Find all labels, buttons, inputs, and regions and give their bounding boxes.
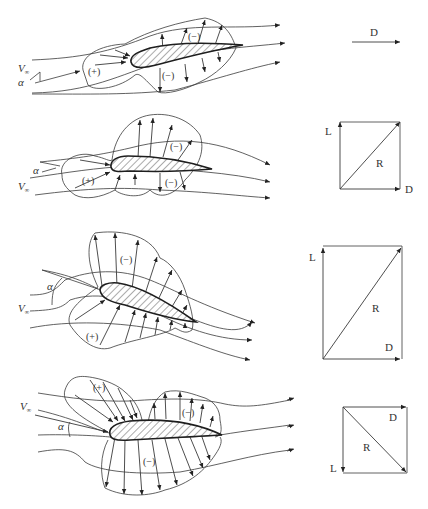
positive-pressure-label: (+) <box>88 66 100 78</box>
panel-4: V∞ α (+) (−) (−) D R L <box>20 376 407 495</box>
lower-suction-label: (−) <box>165 177 177 189</box>
drag-label: D <box>385 341 393 353</box>
lower-suction-label: (−) <box>143 456 155 468</box>
force-diagram: L R D <box>325 122 413 195</box>
force-diagram: D R L <box>330 407 407 474</box>
positive-pressure-label: (+) <box>93 382 105 394</box>
alpha-angle-mark <box>30 72 40 81</box>
streamline <box>35 188 270 198</box>
drag-label: D <box>405 183 413 195</box>
drag-label: D <box>370 26 378 38</box>
panel-1: V∞ α (+) (−) (−) D <box>18 18 400 94</box>
freestream-arrow <box>35 415 108 432</box>
airfoil <box>111 156 212 172</box>
panel-2: V∞ α (+) (−) (−) L R D <box>18 114 413 198</box>
force-diagram: L R D <box>309 246 402 359</box>
upper-suction-label: (−) <box>182 407 194 419</box>
velocity-label: V∞ <box>18 302 30 315</box>
upper-suction-label: (−) <box>188 31 200 43</box>
airfoil-pressure-diagram: V∞ α (+) (−) (−) D V∞ α (+) (−) <box>0 0 428 509</box>
resultant-label: R <box>376 157 384 169</box>
velocity-label: V∞ <box>18 62 30 75</box>
alpha-angle-mark <box>40 162 60 172</box>
streamline <box>32 62 280 94</box>
streamline <box>38 450 290 473</box>
streamline-ends <box>288 399 293 450</box>
streamline <box>30 323 250 360</box>
lift-label: L <box>325 125 332 137</box>
lift-label: L <box>330 462 337 474</box>
streamline <box>38 393 290 406</box>
upper-suction-label: (−) <box>170 141 182 153</box>
lower-suction-envelope <box>102 437 222 495</box>
positive-pressure-label: (+) <box>86 331 98 343</box>
upper-suction-label: (−) <box>120 254 132 266</box>
airfoil <box>110 420 222 440</box>
resultant-vector <box>340 122 400 189</box>
velocity-label: V∞ <box>20 400 32 413</box>
velocity-label: V∞ <box>18 180 30 193</box>
resultant-label: R <box>372 302 380 314</box>
alpha-label: α <box>18 76 24 88</box>
positive-pressure-label: (+) <box>82 175 94 187</box>
drag-label: D <box>389 411 397 423</box>
alpha-label: α <box>33 164 39 176</box>
resultant-label: R <box>363 441 371 453</box>
lift-label: L <box>309 251 316 263</box>
freestream-arrow <box>35 71 80 83</box>
alpha-label: α <box>47 280 53 292</box>
airfoil <box>131 43 243 67</box>
panel-3: V∞ α (−) (+) L R D <box>18 232 402 360</box>
alpha-label: α <box>58 420 64 432</box>
lower-suction-label: (−) <box>162 70 174 82</box>
